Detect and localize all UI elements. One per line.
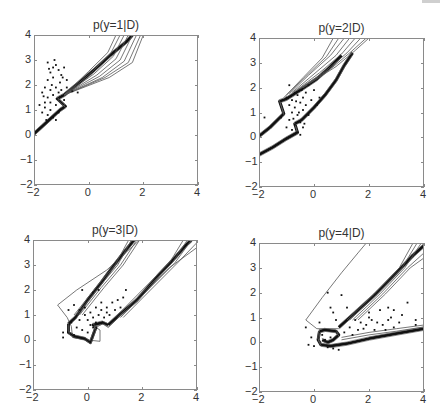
axes-frame <box>34 35 198 185</box>
y-tick-label: 0 <box>250 335 256 347</box>
x-tick-mark <box>369 38 370 41</box>
x-tick-mark <box>424 389 425 392</box>
cropped-page-mark <box>422 0 440 3</box>
x-tick-mark <box>369 389 370 392</box>
y-tick-label: 1 <box>250 311 256 323</box>
y-tick-mark <box>421 88 424 89</box>
x-tick-mark <box>89 182 90 185</box>
y-tick-mark <box>259 113 262 114</box>
x-tick-mark <box>89 35 90 38</box>
y-tick-label: 4 <box>25 28 31 40</box>
y-tick-label: 4 <box>24 233 30 245</box>
y-tick-label: 4 <box>250 236 256 248</box>
y-tick-mark <box>421 243 424 244</box>
y-tick-mark <box>259 137 262 138</box>
y-tick-mark <box>195 110 198 111</box>
x-tick-mark <box>142 240 143 243</box>
y-tick-mark <box>194 240 197 241</box>
x-tick-label: 2 <box>138 391 144 403</box>
x-tick-mark <box>88 387 89 390</box>
y-tick-mark <box>33 340 36 341</box>
y-tick-mark <box>421 113 424 114</box>
x-tick-mark <box>197 387 198 390</box>
plot-title: p(y=2|D) <box>259 21 424 35</box>
y-tick-mark <box>34 35 37 36</box>
y-tick-mark <box>421 342 424 343</box>
y-tick-label: −2 <box>20 178 33 190</box>
y-tick-label: −2 <box>245 385 258 397</box>
y-tick-mark <box>421 38 424 39</box>
x-tick-label: 0 <box>310 393 316 405</box>
x-tick-label: 0 <box>84 391 90 403</box>
y-tick-mark <box>33 240 36 241</box>
y-tick-mark <box>34 85 37 86</box>
y-tick-mark <box>195 60 198 61</box>
x-tick-mark <box>314 389 315 392</box>
y-tick-label: −1 <box>245 360 258 372</box>
x-tick-label: 0 <box>310 188 316 200</box>
y-tick-mark <box>34 135 37 136</box>
x-tick-mark <box>198 182 199 185</box>
y-tick-mark <box>259 162 262 163</box>
plot-title: p(y=1|D) <box>34 18 198 32</box>
x-tick-mark <box>424 184 425 187</box>
y-tick-label: 2 <box>24 283 30 295</box>
y-tick-label: 4 <box>250 31 256 43</box>
y-tick-mark <box>195 160 198 161</box>
x-tick-label: 4 <box>193 391 199 403</box>
y-tick-mark <box>421 392 424 393</box>
y-tick-mark <box>34 60 37 61</box>
y-tick-mark <box>259 88 262 89</box>
y-tick-mark <box>33 315 36 316</box>
y-tick-mark <box>421 367 424 368</box>
y-tick-mark <box>259 367 262 368</box>
x-tick-mark <box>369 184 370 187</box>
y-tick-mark <box>33 390 36 391</box>
plot-title: p(y=3|D) <box>33 223 197 237</box>
y-tick-mark <box>259 293 262 294</box>
y-tick-mark <box>194 390 197 391</box>
y-tick-label: 1 <box>250 106 256 118</box>
y-tick-label: 1 <box>25 103 31 115</box>
y-tick-label: −1 <box>245 155 258 167</box>
y-tick-label: 1 <box>24 308 30 320</box>
x-tick-mark <box>143 35 144 38</box>
y-tick-label: 2 <box>25 78 31 90</box>
y-tick-mark <box>195 35 198 36</box>
y-tick-mark <box>259 63 262 64</box>
x-tick-mark <box>424 38 425 41</box>
y-tick-mark <box>421 63 424 64</box>
y-tick-mark <box>421 137 424 138</box>
y-tick-label: −1 <box>20 153 33 165</box>
x-tick-mark <box>143 182 144 185</box>
axes-frame <box>33 240 197 390</box>
y-tick-mark <box>259 318 262 319</box>
y-tick-mark <box>34 110 37 111</box>
y-tick-label: −2 <box>19 383 32 395</box>
y-tick-mark <box>259 268 262 269</box>
axes-frame <box>259 243 424 392</box>
y-tick-mark <box>421 268 424 269</box>
y-tick-mark <box>194 290 197 291</box>
x-tick-mark <box>424 243 425 246</box>
plot-title: p(y=4|D) <box>259 226 424 240</box>
x-tick-mark <box>197 240 198 243</box>
x-tick-mark <box>314 184 315 187</box>
x-tick-mark <box>198 35 199 38</box>
y-tick-mark <box>259 187 262 188</box>
x-tick-label: 4 <box>420 188 426 200</box>
y-tick-mark <box>259 243 262 244</box>
y-tick-mark <box>421 162 424 163</box>
y-tick-label: 0 <box>24 333 30 345</box>
y-tick-mark <box>259 38 262 39</box>
x-tick-mark <box>88 240 89 243</box>
y-tick-mark <box>421 318 424 319</box>
x-tick-mark <box>314 38 315 41</box>
y-tick-label: 3 <box>250 56 256 68</box>
y-tick-mark <box>34 160 37 161</box>
x-tick-label: 4 <box>194 186 200 198</box>
y-tick-mark <box>194 365 197 366</box>
x-tick-mark <box>369 243 370 246</box>
y-tick-mark <box>421 187 424 188</box>
y-tick-mark <box>33 265 36 266</box>
